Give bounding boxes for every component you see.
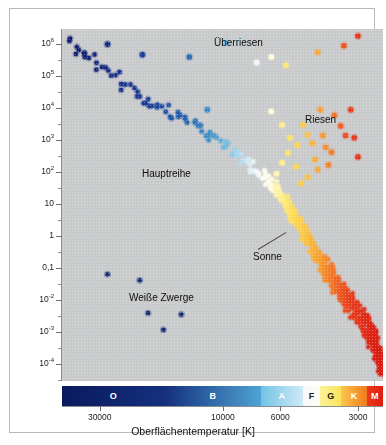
scatter-canvas <box>62 29 383 381</box>
y-tick-mark <box>56 300 62 301</box>
y-tick-mark <box>56 140 62 141</box>
y-tick-mark <box>56 76 62 77</box>
y-minor-tick <box>58 316 62 317</box>
y-minor-tick <box>58 348 62 349</box>
x-axis-tick-label: 30000 <box>88 412 112 422</box>
x-tick-mark <box>280 406 281 411</box>
y-minor-tick <box>58 92 62 93</box>
spectral-class-o: O <box>62 386 165 406</box>
y-tick-exponent: 5 <box>51 69 54 75</box>
x-axis-tick-label: 3000 <box>349 412 368 422</box>
y-tick-exponent: -3 <box>49 325 54 331</box>
x-tick-mark <box>223 406 224 411</box>
y-axis-tick-label: 10-4 <box>10 359 54 368</box>
y-axis-tick-label: 10 <box>10 199 54 208</box>
annotation-ueberriesen: Überriesen <box>214 37 263 48</box>
y-tick-mark <box>56 364 62 365</box>
y-axis-tick-label: 103 <box>10 135 54 144</box>
x-tick-mark <box>100 406 101 411</box>
y-tick-exponent: -4 <box>49 357 54 363</box>
y-minor-tick <box>58 124 62 125</box>
y-tick-mark <box>56 44 62 45</box>
spectral-class-b: B <box>165 386 261 406</box>
spectral-class-g: G <box>320 386 341 406</box>
x-axis-tick-label: 6000 <box>271 412 290 422</box>
y-tick-mark <box>56 204 62 205</box>
y-axis-tick-label: 10-3 <box>10 327 54 336</box>
y-axis-tick-label: 10-2 <box>10 295 54 304</box>
y-tick-mark <box>56 108 62 109</box>
spectral-class-a: A <box>261 386 303 406</box>
spectral-class-bar: OBAFGKM <box>62 386 383 406</box>
y-tick-mark <box>56 236 62 237</box>
y-axis-tick-label: 102 <box>10 167 54 176</box>
hr-diagram-plot-area: ÜberriesenRiesenHauptreiheSonneWeiße Zwe… <box>62 29 383 381</box>
figure-frame: ÜberriesenRiesenHauptreiheSonneWeiße Zwe… <box>9 8 375 433</box>
x-axis-title: Oberflächentemperatur [K] <box>10 425 376 437</box>
annotation-riesen: Riesen <box>305 114 336 125</box>
y-minor-tick <box>58 220 62 221</box>
y-axis-tick-label: 0,1 <box>10 263 54 272</box>
y-tick-exponent: 2 <box>51 165 54 171</box>
y-axis-tick-label: 105 <box>10 71 54 80</box>
y-tick-mark <box>56 172 62 173</box>
spectral-class-f: F <box>303 386 321 406</box>
y-axis-tick-label: 1 <box>10 231 54 240</box>
y-tick-mark <box>56 332 62 333</box>
annotation-sonne: Sonne <box>253 251 282 262</box>
y-minor-tick <box>58 60 62 61</box>
y-tick-exponent: 6 <box>51 37 54 43</box>
spectral-class-m: M <box>367 386 383 406</box>
x-tick-mark <box>358 406 359 411</box>
y-axis-tick-label: 106 <box>10 39 54 48</box>
y-minor-tick <box>58 380 62 381</box>
x-axis-tick-label: 10000 <box>211 412 235 422</box>
y-minor-tick <box>58 188 62 189</box>
y-tick-mark <box>56 268 62 269</box>
y-minor-tick <box>58 284 62 285</box>
spectral-class-k: K <box>341 386 367 406</box>
y-axis-tick-label: 104 <box>10 103 54 112</box>
annotation-weisse-zwerge: Weiße Zwerge <box>129 292 194 303</box>
y-minor-tick <box>58 156 62 157</box>
annotation-hauptreihe: Hauptreihe <box>142 168 191 179</box>
y-tick-exponent: 4 <box>51 101 54 107</box>
y-tick-exponent: -2 <box>49 293 54 299</box>
y-tick-exponent: 3 <box>51 133 54 139</box>
y-minor-tick <box>58 252 62 253</box>
